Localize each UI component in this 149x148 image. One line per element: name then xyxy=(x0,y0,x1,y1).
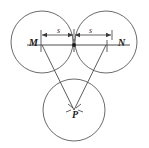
midpoint-dot xyxy=(72,43,76,47)
leg-m-to-p xyxy=(42,45,74,110)
vertex-label-n: N xyxy=(118,38,125,48)
dim-arrow-right-end-icon xyxy=(106,33,111,37)
geometry-canvas xyxy=(0,0,149,148)
dimension-label-s-right: s xyxy=(89,27,92,35)
top-right-circle xyxy=(75,11,137,73)
leg-n-to-p xyxy=(74,45,106,110)
dimension-label-s-left: s xyxy=(57,27,60,35)
top-left-circle xyxy=(11,11,73,73)
p-tick-right xyxy=(78,110,83,112)
dim-arrow-left-start-icon xyxy=(42,33,47,37)
vertex-label-m: M xyxy=(29,38,38,48)
p-tick-left xyxy=(66,110,71,112)
vertex-label-p: P xyxy=(72,110,78,120)
geometry-figure: M N P s s xyxy=(0,0,149,148)
